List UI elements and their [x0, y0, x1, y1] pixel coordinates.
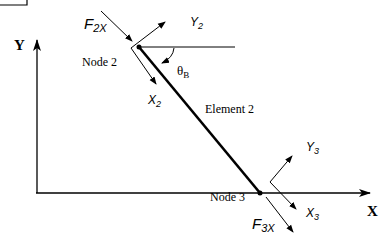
x-axis-label: X [367, 203, 378, 219]
truss-element-diagram: Y X Node 2 Node 3 Element 2 F2X Y2 X2 θB… [0, 0, 390, 245]
element-2-bar [139, 47, 260, 193]
force-f3x-label: F3X [252, 215, 275, 234]
angle-label: θB [177, 63, 189, 80]
node-2-y-local-axis [131, 22, 165, 48]
node-3-y-local-axis [270, 156, 292, 182]
node-2-y-label: Y2 [190, 15, 203, 31]
angle-arc [162, 48, 174, 63]
node-3-x-local-axis [270, 182, 296, 209]
node-3-x-label: X3 [305, 206, 319, 222]
element-label: Element 2 [205, 102, 254, 116]
force-f2x-label: F2X [84, 15, 107, 34]
node-2-label: Node 2 [82, 55, 117, 69]
node-2-point [137, 45, 142, 50]
y-axis-label: Y [14, 37, 25, 53]
node-3-label: Node 3 [210, 190, 245, 204]
node-2-x-label: X2 [147, 93, 161, 109]
frame-corner [0, 0, 27, 5]
node-3-y-label: Y3 [306, 140, 319, 156]
node-3-point [258, 191, 263, 196]
